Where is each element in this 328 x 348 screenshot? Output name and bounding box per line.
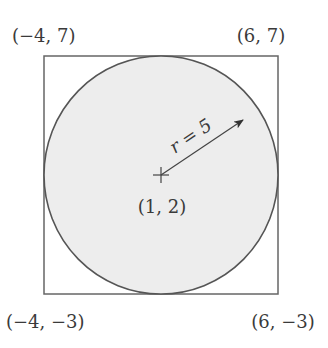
- corner-label-top-left: (−4, 7): [12, 25, 75, 46]
- corner-label-bottom-left: (−4, −3): [6, 311, 85, 332]
- corner-label-bottom-right: (6, −3): [251, 311, 314, 332]
- center-label: (1, 2): [138, 196, 186, 217]
- diagram-canvas: r = 5 (1, 2) (−4, 7) (6, 7) (−4, −3) (6,…: [0, 0, 328, 348]
- diagram-svg: r = 5 (1, 2) (−4, 7) (6, 7) (−4, −3) (6,…: [0, 0, 328, 348]
- corner-label-top-right: (6, 7): [237, 25, 285, 46]
